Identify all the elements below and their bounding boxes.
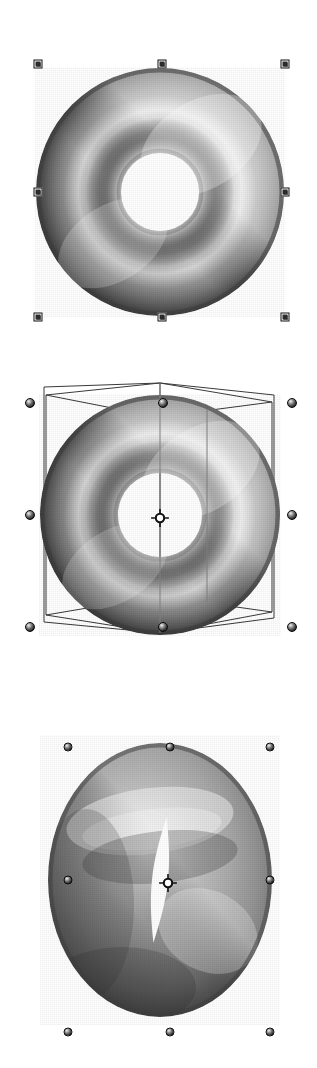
handle-middle-left[interactable] bbox=[25, 510, 35, 520]
handle-bottom-center[interactable] bbox=[158, 313, 167, 322]
handle-top-center[interactable] bbox=[158, 398, 168, 408]
handle-middle-right[interactable] bbox=[266, 876, 275, 885]
handle-bottom-left[interactable] bbox=[64, 1028, 73, 1037]
handle-bottom-right[interactable] bbox=[281, 313, 290, 322]
handle-middle-right[interactable] bbox=[281, 188, 290, 197]
handle-top-center[interactable] bbox=[166, 743, 175, 752]
viewport-top[interactable] bbox=[0, 0, 317, 350]
screenshot-root bbox=[0, 0, 317, 1068]
viewport-bottom-stage[interactable] bbox=[0, 695, 317, 1068]
torus-object-top[interactable] bbox=[35, 67, 285, 317]
pivot-marker-middle[interactable] bbox=[151, 509, 170, 528]
handle-bottom-right[interactable] bbox=[287, 622, 297, 632]
handle-top-right[interactable] bbox=[281, 60, 290, 69]
torus-render-top bbox=[35, 67, 285, 317]
pivot-marker-bottom[interactable] bbox=[159, 874, 178, 893]
handle-bottom-center[interactable] bbox=[166, 1028, 175, 1037]
handle-middle-left[interactable] bbox=[34, 188, 43, 197]
viewport-bottom[interactable] bbox=[0, 695, 317, 1068]
handle-bottom-right[interactable] bbox=[266, 1028, 275, 1037]
handle-top-left[interactable] bbox=[64, 743, 73, 752]
handle-bottom-left[interactable] bbox=[34, 313, 43, 322]
handle-bottom-left[interactable] bbox=[25, 622, 35, 632]
handle-top-left[interactable] bbox=[25, 398, 35, 408]
handle-top-right[interactable] bbox=[287, 398, 297, 408]
viewport-top-stage[interactable] bbox=[0, 0, 317, 350]
handle-bottom-center[interactable] bbox=[158, 622, 168, 632]
handle-middle-right[interactable] bbox=[287, 510, 297, 520]
viewport-middle-stage[interactable] bbox=[0, 350, 317, 695]
handle-top-center[interactable] bbox=[158, 60, 167, 69]
handle-top-left[interactable] bbox=[34, 60, 43, 69]
handle-top-right[interactable] bbox=[266, 743, 275, 752]
handle-middle-left[interactable] bbox=[64, 876, 73, 885]
viewport-middle[interactable] bbox=[0, 350, 317, 695]
